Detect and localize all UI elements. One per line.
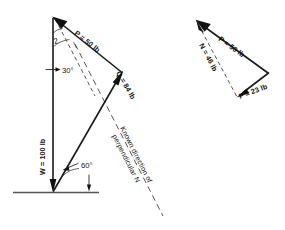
vector-Q-shaft [54,79,119,191]
left-force-polygon: 30° 2 60° P = 50 lb Q = 84 lb W = 100 lb… [13,17,163,216]
vector-label-W: W = 100 lb [38,138,47,175]
vector-label-Q: Q = 84 lb [114,70,138,102]
vector-label-N2: N = 46 lb [197,42,220,74]
vector-label-P: P = 50 lb [73,29,103,55]
leader-30-arrowhead [56,67,61,71]
leader-60-arrowhead [63,167,70,171]
vector-N2-shaft [198,24,237,96]
statics-vector-diagram: 30° 2 60° P = 50 lb Q = 84 lb W = 100 lb… [0,0,285,230]
right-force-triangle: P = 50 lb N = 46 lb F = 23 lb [196,20,270,101]
leader-60-ground-arrowhead [87,185,91,192]
angle-label-60: 60° [81,161,92,170]
vector-label-P2: P = 50 lb [217,34,247,59]
perpendicular-tick [74,42,77,48]
angle-label-30: 30° [62,66,73,75]
angle-tick-2 [53,29,63,34]
